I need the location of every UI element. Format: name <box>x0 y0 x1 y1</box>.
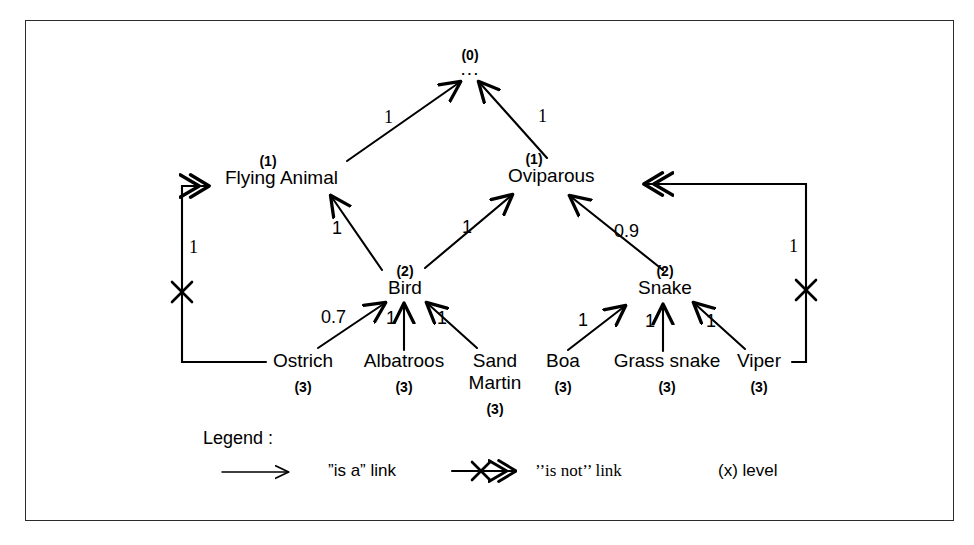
node-albatroos-level: (3) <box>348 380 460 395</box>
node-boa[interactable]: Boa (3) <box>535 351 591 395</box>
node-ostrich-level: (3) <box>265 380 341 395</box>
node-grass-snake-level: (3) <box>608 380 726 395</box>
node-flying-animal-label: Flying Animal <box>225 168 375 188</box>
node-bird[interactable]: (2) Bird <box>374 264 436 298</box>
weight-bird-to-flying-animal: 1 <box>332 219 342 237</box>
node-albatroos[interactable]: Albatroos (3) <box>348 351 460 395</box>
diagram-page: (0) ... (1) Flying Animal (1) Oviparous … <box>0 0 974 545</box>
node-root-label: ... <box>435 62 505 76</box>
node-oviparous-label: Oviparous <box>508 166 618 186</box>
edge-viper-to-snake <box>694 303 745 349</box>
weight-oviparous-to-root: 1 <box>538 107 547 125</box>
weight-snake-to-oviparous: 0.9 <box>614 222 639 240</box>
node-grass-snake[interactable]: Grass snake (3) <box>608 351 726 395</box>
legend-is-a-label: ”is a” link <box>328 461 396 481</box>
weight-viper-to-snake: 1 <box>706 312 716 330</box>
node-sand-martin-label-line1: Sand <box>455 351 535 371</box>
edge-oviparous-to-root <box>479 82 547 158</box>
legend-level-label: (x) level <box>718 461 778 481</box>
node-sand-martin[interactable]: Sand Martin (3) <box>455 351 535 417</box>
node-viper-level: (3) <box>726 380 792 395</box>
edge-boa-to-snake <box>568 306 625 350</box>
node-oviparous[interactable]: (1) Oviparous <box>508 152 618 186</box>
node-albatroos-label: Albatroos <box>348 351 460 371</box>
legend-title: Legend : <box>203 428 273 449</box>
edge-flying-animal-to-root <box>347 82 460 161</box>
weight-flying-animal-to-root: 1 <box>384 108 393 126</box>
node-ostrich[interactable]: Ostrich (3) <box>265 351 341 395</box>
node-root[interactable]: (0) ... <box>435 48 505 76</box>
weight-sand-martin-to-bird: 1 <box>437 309 447 327</box>
node-sand-martin-level: (3) <box>455 402 535 417</box>
node-sand-martin-label-line2: Martin <box>455 373 535 393</box>
node-snake[interactable]: (2) Snake <box>631 264 699 298</box>
edge-sand-martin-to-bird <box>427 303 477 348</box>
weight-viper-is-not-oviparous: 1 <box>789 237 798 255</box>
node-ostrich-label: Ostrich <box>265 351 341 371</box>
node-viper[interactable]: Viper (3) <box>726 351 792 395</box>
node-snake-label: Snake <box>631 278 699 298</box>
node-flying-animal[interactable]: (1) Flying Animal <box>225 154 375 188</box>
legend-is-not-label: ’’is not’’ link <box>535 461 622 481</box>
weight-boa-to-snake: 1 <box>578 311 588 329</box>
node-boa-level: (3) <box>535 380 591 395</box>
node-boa-label: Boa <box>535 351 591 371</box>
edge-ostrich-is-not-flying-animal <box>182 186 266 362</box>
weight-albatroos-to-bird: 1 <box>386 309 396 327</box>
weight-grass-snake-to-snake: 1 <box>645 312 655 330</box>
weight-ostrich-is-not-flying-animal: 1 <box>189 238 198 256</box>
node-viper-label: Viper <box>726 351 792 371</box>
weight-ostrich-to-bird: 0.7 <box>321 308 346 326</box>
weight-bird-to-oviparous: 1 <box>462 218 472 236</box>
diagram-edges-layer <box>0 0 974 545</box>
node-grass-snake-label: Grass snake <box>608 351 726 371</box>
node-bird-label: Bird <box>374 278 436 298</box>
